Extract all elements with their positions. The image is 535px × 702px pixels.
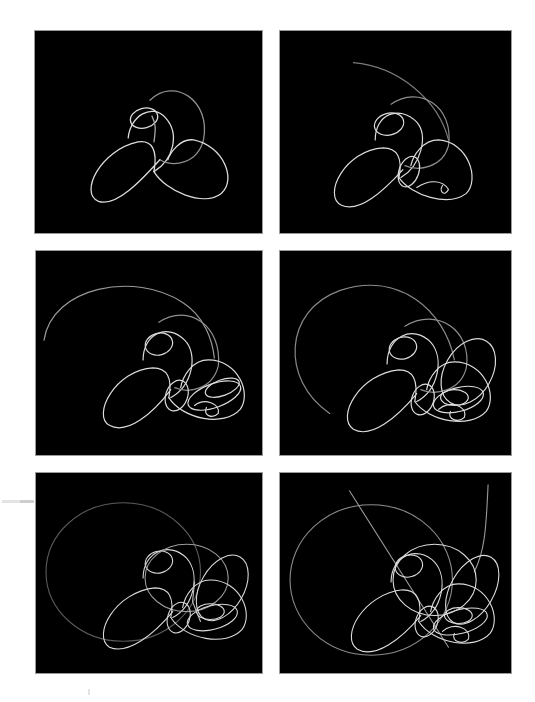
orbit-panel-2 bbox=[279, 30, 512, 234]
orbit-trace-2 bbox=[280, 31, 511, 233]
orbit-trace-1 bbox=[35, 31, 262, 233]
orbit-trace-4 bbox=[280, 251, 511, 455]
orbit-panel-3 bbox=[35, 250, 263, 456]
orbit-panel-5 bbox=[35, 472, 263, 674]
orbit-trace-6 bbox=[280, 473, 511, 673]
orbit-trace-3 bbox=[36, 251, 262, 455]
orbit-panel-4 bbox=[279, 250, 512, 456]
orbit-panel-1 bbox=[34, 30, 263, 234]
orbit-panel-6 bbox=[279, 472, 512, 674]
orbit-trace-5 bbox=[36, 473, 262, 673]
margin-annotation bbox=[2, 500, 34, 503]
scan-fleck bbox=[88, 689, 90, 695]
